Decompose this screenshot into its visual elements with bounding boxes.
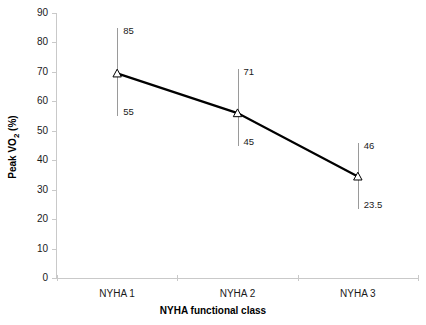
y-axis-title-suffix: (%)	[7, 115, 18, 133]
y-axis-title: Peak VO2 (%)	[7, 77, 21, 217]
y-axis-title-prefix: Peak VO	[7, 138, 18, 179]
y-axis-title-subscript: 2	[12, 134, 21, 138]
data-point-marker	[113, 69, 121, 77]
series-polyline	[117, 73, 358, 176]
series-line	[0, 0, 426, 325]
x-axis-title: NYHA functional class	[0, 305, 426, 316]
chart-container: 0102030405060708090 NYHA 1NYHA 2NYHA 3 8…	[0, 0, 426, 325]
